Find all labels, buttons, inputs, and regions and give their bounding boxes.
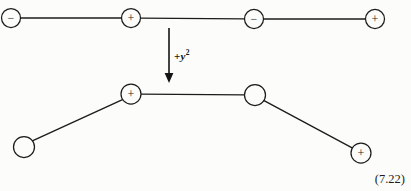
node-top-4[interactable]: +: [366, 10, 385, 29]
node-sign-label: −: [8, 11, 15, 25]
node-sign-label: +: [372, 12, 379, 26]
node-bottom-4[interactable]: +: [351, 143, 371, 163]
edge-b1-b2: [33, 100, 123, 141]
node-bottom-2[interactable]: +: [121, 84, 141, 104]
arrow-head: [165, 73, 174, 83]
node-top-2[interactable]: +: [122, 9, 141, 28]
node-bottom-1[interactable]: [14, 137, 35, 158]
node-sign-label: −: [251, 12, 258, 26]
node-bottom-3[interactable]: [245, 85, 266, 106]
down-arrow-icon: [165, 28, 174, 83]
node-top-1[interactable]: −: [2, 9, 21, 28]
operator-label: +y2: [174, 48, 190, 62]
equation-number: (7.22): [375, 172, 405, 187]
node-circle: [245, 85, 266, 106]
node-circle: [14, 137, 35, 158]
operator-sign: +: [174, 50, 181, 62]
bottom-chain-nodes: + +: [14, 84, 372, 163]
figure-container: − + − +: [0, 0, 411, 191]
operator-exponent: 2: [186, 48, 190, 57]
edge-b2-b3: [141, 94, 245, 95]
edge-t2-t3: [141, 18, 245, 19]
node-sign-label: +: [128, 11, 135, 25]
dynkin-diagram-figure: − + − +: [0, 0, 411, 191]
node-sign-label: +: [128, 87, 135, 101]
bottom-chain-edges: [33, 94, 353, 148]
edge-b3-b4: [264, 100, 353, 148]
top-chain-edges: [21, 18, 366, 19]
node-sign-label: +: [358, 146, 365, 160]
node-top-3[interactable]: −: [245, 10, 264, 29]
